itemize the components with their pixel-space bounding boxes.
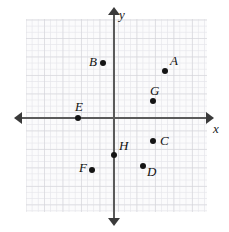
point-label-b: B	[89, 55, 97, 68]
point-label-a: A	[170, 54, 178, 67]
point-dot-a	[162, 68, 168, 74]
point-dot-h	[111, 152, 117, 158]
x-axis-arrow-left-icon	[14, 112, 22, 124]
point-dot-f	[89, 167, 95, 173]
point-label-e: E	[75, 100, 83, 113]
point-label-h: H	[119, 139, 128, 152]
x-axis-label: x	[213, 122, 219, 135]
point-dot-e	[75, 115, 81, 121]
point-dot-c	[150, 138, 156, 144]
y-axis-line	[113, 13, 115, 221]
point-label-g: G	[150, 84, 159, 97]
y-axis-arrow-down-icon	[108, 218, 120, 226]
point-label-f: F	[79, 161, 87, 174]
coordinate-plane-figure: x y ABCDEFGH	[0, 0, 229, 232]
point-dot-g	[150, 98, 156, 104]
graph-paper-grid	[26, 19, 207, 212]
point-label-c: C	[160, 134, 169, 147]
point-dot-b	[100, 60, 106, 66]
y-axis-label: y	[119, 8, 125, 21]
point-dot-d	[140, 163, 146, 169]
point-label-d: D	[147, 165, 156, 178]
